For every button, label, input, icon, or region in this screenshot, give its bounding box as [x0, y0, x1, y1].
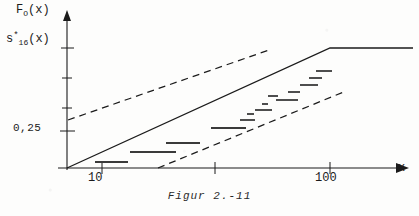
plot-canvas [0, 0, 419, 216]
series-theoretical-line [67, 48, 413, 168]
y-axis-arrowhead [63, 10, 71, 21]
y-axis-label-f0: FO(x) [16, 4, 50, 18]
x-tick-label-10: 10 [88, 172, 102, 184]
y-tick-label-025: 0,25 [13, 123, 41, 134]
series-empirical-steps [95, 71, 332, 162]
series-upper-confidence-band [68, 49, 272, 120]
label-s16-argument: (x) [28, 32, 50, 46]
figure-container: FO(x) s*16(x) 0,25 10 100 x Figur 2.-11 [0, 0, 419, 216]
label-f0-argument: (x) [28, 3, 50, 17]
x-axis-label: x [398, 162, 405, 174]
series-lower-confidence-band [158, 91, 346, 168]
figure-caption: Figur 2.-11 [0, 190, 419, 202]
y-axis-label-s16: s*16(x) [6, 32, 50, 47]
label-s16-subscript: 16 [19, 38, 29, 47]
x-tick-label-100: 100 [315, 172, 337, 184]
